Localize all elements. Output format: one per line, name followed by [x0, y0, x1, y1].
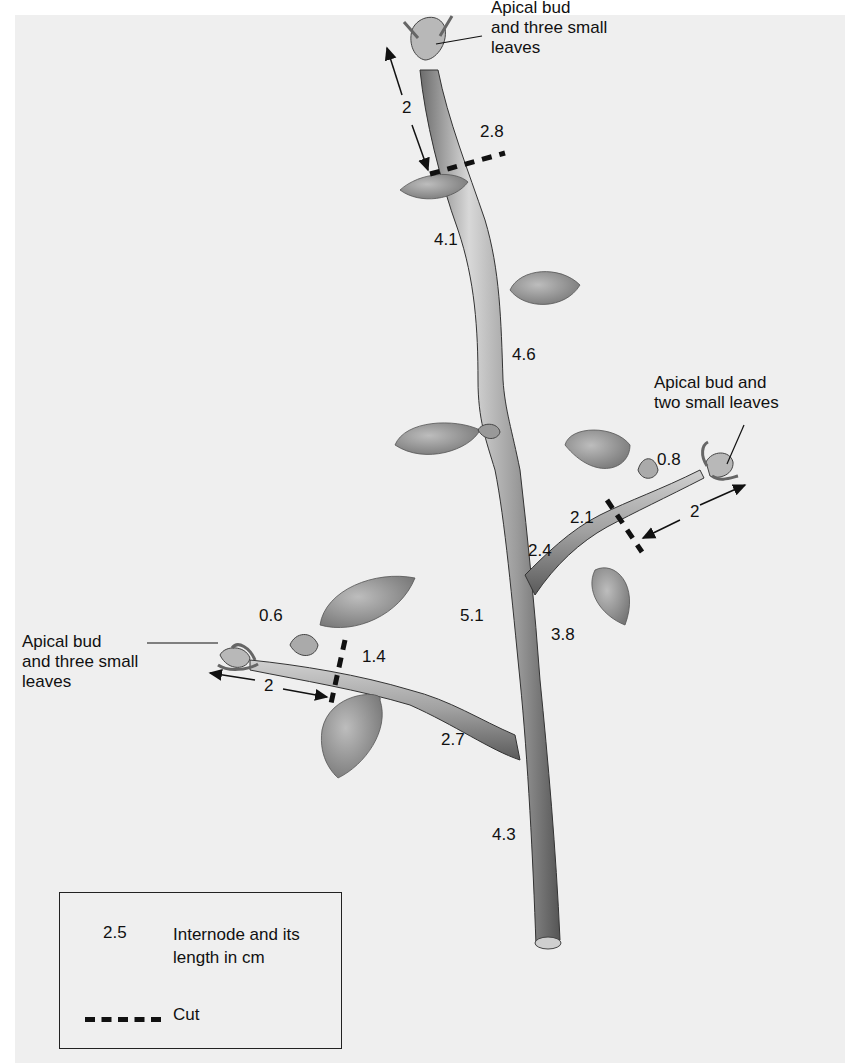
callout-right-apical: Apical bud and two small leaves: [654, 373, 779, 413]
apical-bud-left: [220, 648, 250, 668]
legend-cut-label: Cut: [173, 1005, 199, 1025]
distance-top: 2: [402, 98, 411, 118]
internode-left-inner: 2.7: [441, 730, 465, 750]
internode-main-upper: 4.1: [434, 230, 458, 250]
callout-top-apical: Apical bud and three small leaves: [491, 0, 607, 58]
leaf: [592, 568, 630, 625]
bud: [638, 459, 658, 479]
internode-right-below: 3.8: [551, 625, 575, 645]
internode-right-outer: 2.1: [570, 508, 594, 528]
apical-bud-right: [706, 453, 733, 477]
legend-box: 2.5 Internode and its length in cm Cut: [59, 892, 342, 1049]
bud: [290, 634, 318, 655]
leaf: [320, 576, 415, 627]
leaf: [395, 423, 480, 455]
internode-main-middle: 4.6: [512, 345, 536, 365]
internode-right-tip: 0.8: [657, 450, 681, 470]
internode-main-lower: 5.1: [460, 606, 484, 626]
left-branch: [250, 660, 520, 760]
legend-sample-number: 2.5: [103, 923, 127, 943]
distance-right: 2: [690, 502, 699, 522]
legend-cut-swatch: [85, 1017, 161, 1022]
internode-top: 2.8: [480, 122, 504, 142]
internode-left-outer: 1.4: [362, 647, 386, 667]
leaf: [321, 694, 382, 778]
apical-bud-top: [411, 17, 446, 60]
internode-right-inner: 2.4: [528, 541, 552, 561]
distance-left: 2: [264, 676, 273, 696]
internode-main-base: 4.3: [492, 825, 516, 845]
main-stem: [420, 70, 561, 949]
internode-left-tip: 0.6: [259, 606, 283, 626]
callout-left-apical: Apical bud and three small leaves: [22, 632, 138, 692]
node: [478, 424, 500, 438]
leaf: [565, 430, 630, 468]
leaf: [510, 272, 580, 305]
legend-internode-desc: Internode and its length in cm: [173, 923, 333, 969]
